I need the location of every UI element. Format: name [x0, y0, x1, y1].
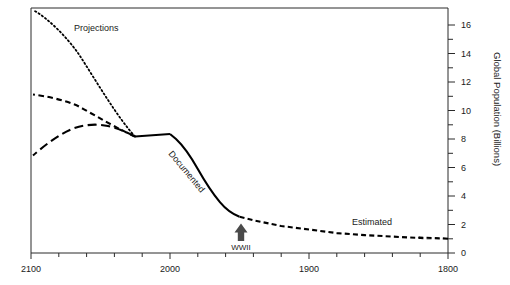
y-tick-label-6: 6 — [461, 163, 466, 173]
y-tick-label-0: 0 — [461, 248, 466, 258]
annotation-estimated-label: Estimated — [352, 217, 392, 227]
y-tick-label-8: 8 — [461, 134, 466, 144]
y-axis-title: Global Population (Billions) — [492, 52, 503, 166]
x-axis-ticks — [31, 253, 448, 259]
series-low-projection-line — [33, 125, 135, 156]
y-tick-label-2: 2 — [461, 220, 466, 230]
y-tick-label-16: 16 — [461, 20, 471, 30]
annotation-documented-label: Documented — [166, 149, 206, 195]
series-estimated-line — [240, 217, 449, 239]
x-tick-label-1900: 1900 — [299, 264, 319, 274]
ww2-arrow-icon — [235, 224, 248, 242]
population-chart-figure: 2100 2000 1900 1800 16 14 12 10 — [0, 0, 510, 285]
x-tick-label-1800: 1800 — [438, 264, 458, 274]
y-tick-label-10: 10 — [461, 106, 471, 116]
y-tick-label-12: 12 — [461, 77, 471, 87]
x-tick-label-2100: 2100 — [21, 264, 41, 274]
series-documented-tail — [135, 134, 170, 137]
y-tick-label-4: 4 — [461, 191, 466, 201]
series-documented-line — [170, 134, 240, 217]
annotation-ww2-label: WWII — [231, 243, 251, 252]
x-tick-label-2000: 2000 — [160, 264, 180, 274]
y-axis-ticks — [448, 25, 455, 253]
annotation-projections-label: Projections — [74, 23, 119, 33]
chart-canvas: 2100 2000 1900 1800 16 14 12 10 — [0, 0, 510, 285]
y-tick-label-14: 14 — [461, 49, 471, 59]
